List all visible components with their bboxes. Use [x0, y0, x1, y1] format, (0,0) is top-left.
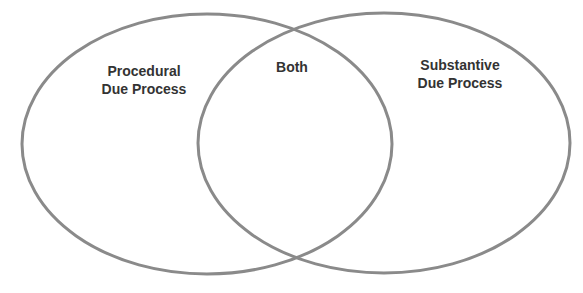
label-line: Procedural: [84, 62, 204, 80]
label-line: Both: [262, 58, 322, 76]
procedural-due-process-ellipse: [22, 14, 392, 274]
label-line: Due Process: [84, 80, 204, 98]
procedural-due-process-label: Procedural Due Process: [84, 62, 204, 98]
label-line: Substantive: [400, 56, 520, 74]
substantive-due-process-ellipse: [198, 13, 570, 273]
venn-diagram: [0, 0, 583, 293]
both-label: Both: [262, 58, 322, 76]
label-line: Due Process: [400, 74, 520, 92]
substantive-due-process-label: Substantive Due Process: [400, 56, 520, 92]
